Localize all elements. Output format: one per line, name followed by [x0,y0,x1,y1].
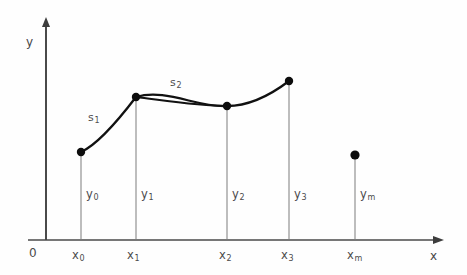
y-value-label-y3: y3 [294,189,306,201]
x-tick-label-x2-sub: 2 [227,254,232,263]
x-axis-group [28,236,444,244]
y-value-label-y1-sub: 1 [149,193,154,202]
data-point-p3 [285,77,293,85]
y-value-label-y0: y0 [86,189,98,201]
spline-segment-s3 [227,81,289,106]
spline-diagram: y x 0 s1 s2 y0 y1 y2 y3 ym x0 x1 x2 x3 x… [0,0,467,275]
segment-label-s1-sub: 1 [94,116,99,125]
x-tick-label-x2-text: x [219,248,226,262]
segment-label-s1: s1 [88,112,99,123]
x-tick-label-x1-sub: 1 [135,254,140,263]
origin-label: 0 [29,247,37,259]
x-tick-label-x1-text: x [127,248,134,262]
y-value-label-y0-text: y [86,187,93,201]
y-value-label-y3-text: y [294,187,301,201]
x-tick-label-x3: x3 [281,250,293,262]
data-point-p0 [77,148,85,156]
x-axis-label: x [430,250,437,262]
plot-canvas [0,0,467,275]
x-tick-label-xm-sub: m [355,254,363,263]
x-tick-label-x0: x0 [72,250,84,262]
x-tick-label-x2: x2 [219,250,231,262]
data-point-pm [350,150,359,159]
spline-curve-group [81,81,289,152]
data-point-p1 [132,93,140,101]
y-value-label-y0-sub: 0 [94,193,99,202]
y-value-label-y1-text: y [141,187,148,201]
data-point-p2 [223,102,231,110]
y-value-label-y2-sub: 2 [240,193,245,202]
y-value-label-ym-text: y [360,187,367,201]
x-tick-label-x3-sub: 3 [289,254,294,263]
spline-segment-s1 [81,97,136,152]
y-value-label-y3-sub: 3 [302,193,307,202]
y-axis-label: y [26,36,33,48]
x-tick-label-xm-text: x [347,248,354,262]
y-axis-group [42,17,50,240]
y-value-label-ym: ym [360,189,375,201]
x-tick-label-x3-text: x [281,248,288,262]
y-value-label-y2: y2 [232,189,244,201]
x-tick-label-xm: xm [347,250,362,262]
y-value-label-ym-sub: m [368,193,376,202]
x-tick-label-x1: x1 [127,250,139,262]
x-axis-arrow-icon [433,236,444,244]
spline-segment-s2 [136,95,227,106]
segment-label-s2-sub: 2 [176,81,181,90]
y-value-label-y1: y1 [141,189,153,201]
y-axis-arrow-icon [42,17,50,27]
x-tick-label-x0-text: x [72,248,79,262]
segment-label-s2: s2 [170,77,181,88]
y-value-label-y2-text: y [232,187,239,201]
x-tick-label-x0-sub: 0 [80,254,85,263]
